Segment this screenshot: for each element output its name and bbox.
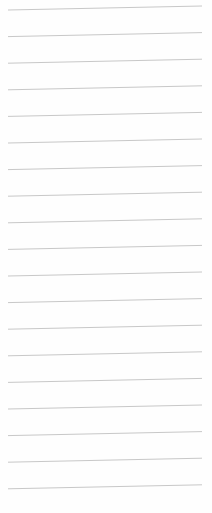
ruled-line	[8, 325, 202, 329]
ruled-line	[8, 245, 202, 249]
ruled-line	[8, 485, 202, 489]
ruled-line	[8, 86, 202, 90]
ruled-line	[8, 458, 202, 462]
ruled-line	[8, 192, 202, 196]
ruled-line	[8, 33, 202, 37]
ruled-line	[8, 405, 202, 409]
ruled-line	[8, 378, 202, 382]
ruled-line	[8, 352, 202, 356]
ruled-line	[8, 272, 202, 276]
ruled-line	[8, 219, 202, 223]
ruled-line	[8, 166, 202, 170]
ruled-lines	[0, 0, 212, 513]
ruled-line	[8, 139, 202, 143]
ruled-line	[8, 299, 202, 303]
ruled-line	[8, 6, 202, 10]
ruled-line	[8, 59, 202, 63]
ruled-line	[8, 112, 202, 116]
ruled-line	[8, 432, 202, 436]
lined-paper	[0, 0, 212, 513]
